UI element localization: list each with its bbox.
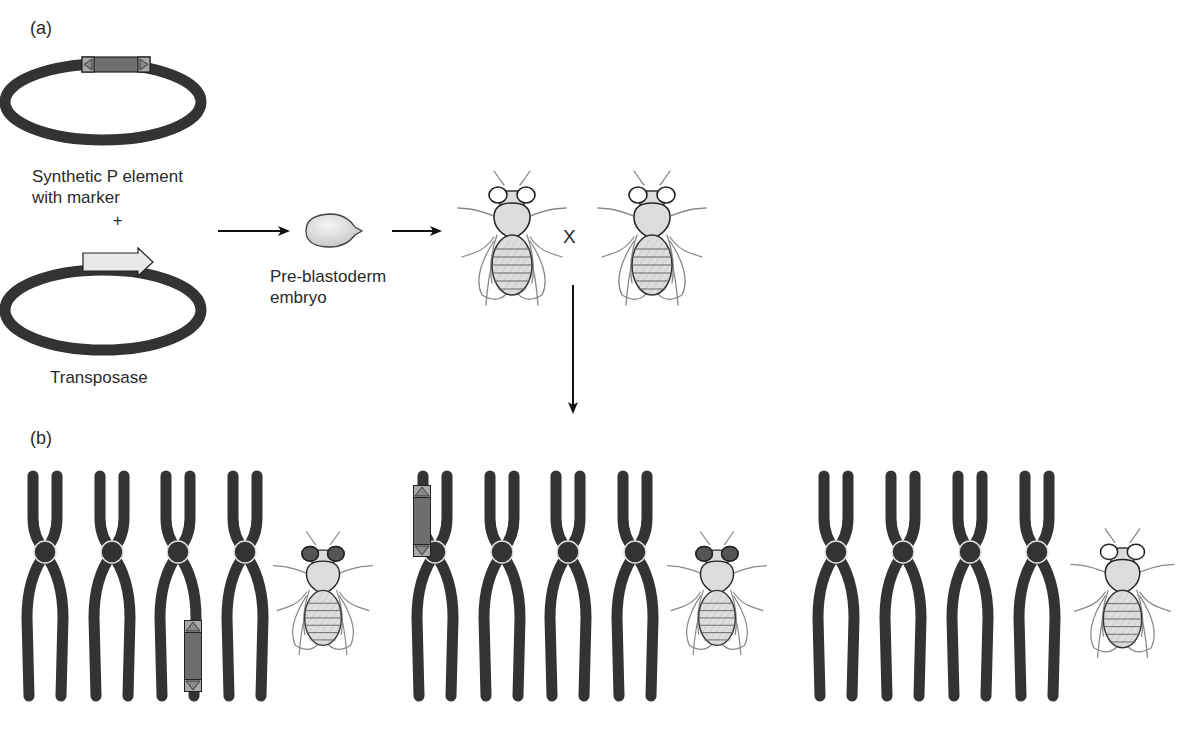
p-element-plasmid (5, 57, 201, 140)
p-element-insertion-icon (414, 486, 431, 557)
progeny-group-2 (414, 476, 767, 696)
embryo-icon (306, 214, 362, 247)
chromosome (818, 476, 854, 696)
chromosome (550, 476, 586, 696)
chromosome (1019, 476, 1055, 696)
parent-fly-1-icon (458, 171, 566, 305)
chromosome (885, 476, 921, 696)
progeny-fly-red-eye-icon (274, 532, 373, 655)
chromosome (27, 476, 63, 696)
parent-fly-2-icon (598, 171, 706, 305)
progeny-fly-white-eye-icon (1071, 529, 1175, 657)
transposase-plasmid (5, 248, 201, 350)
progeny-group-3 (818, 476, 1174, 696)
diagram-canvas (0, 0, 1186, 737)
p-element-insertion-icon (185, 621, 202, 692)
chromosome (94, 476, 130, 696)
progeny-fly-red-eye-icon (668, 532, 767, 655)
chromosome (952, 476, 988, 696)
progeny-group-1 (27, 476, 373, 696)
chromosome (484, 476, 520, 696)
chromosome (227, 476, 263, 696)
chromosome (617, 476, 653, 696)
